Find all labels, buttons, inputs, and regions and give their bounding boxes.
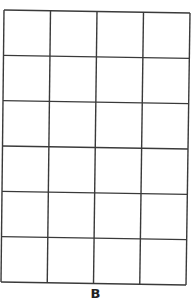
figure-label: B — [0, 286, 191, 301]
grid-diagram — [0, 0, 191, 305]
